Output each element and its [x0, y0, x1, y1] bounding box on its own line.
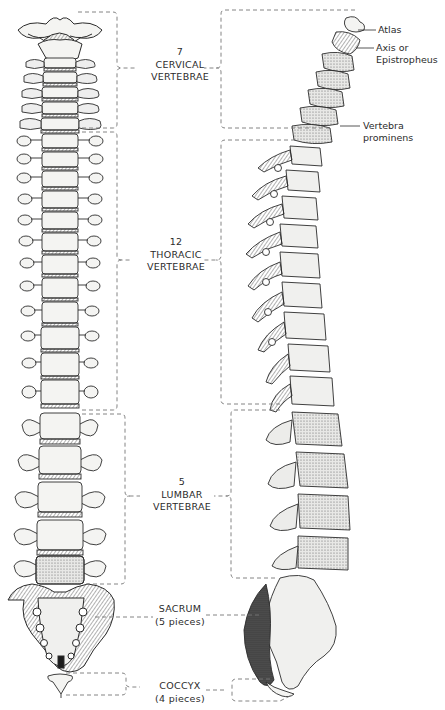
- atlas-callout: Atlas: [378, 24, 401, 36]
- coccyx-label: COCCYX (4 pieces): [150, 680, 210, 705]
- sacrum-sub: (5 pieces): [150, 616, 210, 629]
- thoracic-sub: VERTEBRAE: [134, 261, 218, 274]
- axis-label-line2: Epistropheus: [376, 54, 438, 66]
- cervical-sub: VERTEBRAE: [138, 71, 222, 84]
- atlas-label: Atlas: [378, 24, 401, 36]
- sacrum-anterior: [8, 584, 114, 672]
- cervical-vertebrae-anterior: [20, 58, 101, 133]
- lumbar-sub: VERTEBRAE: [140, 501, 224, 514]
- thoracic-vertebrae-anterior: [17, 134, 103, 408]
- axis-label-line1: Axis or: [376, 42, 438, 54]
- thoracic-label: 12 THORACIC VERTEBRAE: [134, 236, 218, 274]
- coccyx-anterior: [48, 674, 73, 698]
- axis-callout: Axis or Epistropheus: [376, 42, 438, 66]
- cervical-label: 7 CERVICAL VERTEBRAE: [138, 46, 222, 84]
- lateral-view: [244, 17, 365, 697]
- spine-illustration: [0, 0, 445, 710]
- lumbar-count: 5: [140, 476, 224, 489]
- vertebra-prominens-callout: Vertebra prominens: [363, 120, 413, 144]
- prominens-label-line2: prominens: [363, 132, 413, 144]
- coccyx-name: COCCYX: [150, 680, 210, 693]
- sacrum-name: SACRUM: [150, 603, 210, 616]
- lumbar-name: LUMBAR: [140, 489, 224, 502]
- lumbar-vertebrae-anterior: [14, 413, 106, 584]
- cervical-name: CERVICAL: [138, 59, 222, 72]
- cervical-count: 7: [138, 46, 222, 59]
- anterior-view: [18, 18, 102, 61]
- sacrum-label: SACRUM (5 pieces): [150, 603, 210, 628]
- thoracic-count: 12: [134, 236, 218, 249]
- lumbar-label: 5 LUMBAR VERTEBRAE: [140, 476, 224, 514]
- prominens-label-line1: Vertebra: [363, 120, 413, 132]
- coccyx-sub: (4 pieces): [150, 693, 210, 706]
- thoracic-name: THORACIC: [134, 249, 218, 262]
